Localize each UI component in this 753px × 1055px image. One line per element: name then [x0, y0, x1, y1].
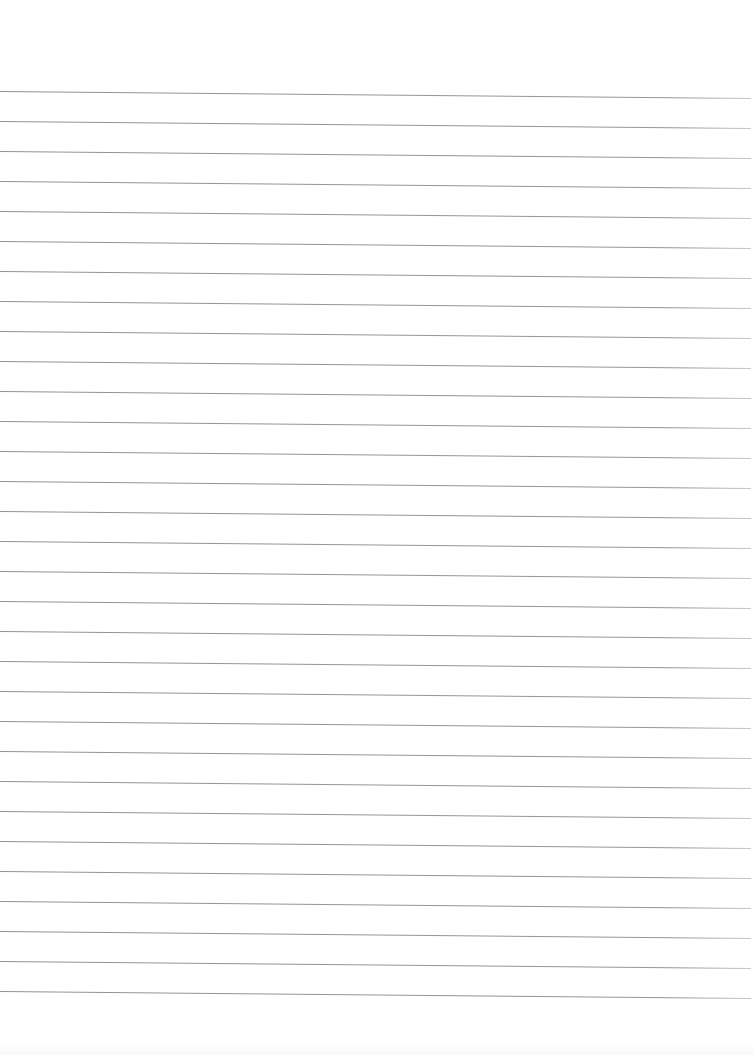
- rule-line: [0, 272, 751, 279]
- rule-line-group: [0, 92, 751, 999]
- rule-line: [0, 962, 751, 969]
- rule-line: [0, 572, 751, 579]
- lined-paper-page: [0, 0, 753, 1055]
- scan-bleed-edge: [0, 1043, 753, 1055]
- rule-line: [0, 932, 751, 939]
- rule-line: [0, 392, 751, 399]
- rule-line: [0, 452, 751, 459]
- rule-line: [0, 992, 751, 999]
- ruled-lines: [0, 0, 753, 1055]
- rule-line: [0, 362, 751, 369]
- rule-line: [0, 512, 751, 519]
- rule-line: [0, 542, 751, 549]
- rule-line: [0, 842, 751, 849]
- rule-line: [0, 122, 751, 129]
- rule-line: [0, 482, 751, 489]
- rule-line: [0, 692, 751, 699]
- rule-line: [0, 722, 751, 729]
- rule-line: [0, 782, 751, 789]
- rule-line: [0, 302, 751, 309]
- rule-line: [0, 152, 751, 159]
- rule-line: [0, 632, 751, 639]
- rule-line: [0, 422, 751, 429]
- rule-line: [0, 182, 751, 189]
- rule-line: [0, 602, 751, 609]
- rule-line: [0, 332, 751, 339]
- rule-line: [0, 752, 751, 759]
- rule-line: [0, 902, 751, 909]
- rule-line: [0, 92, 751, 99]
- rule-line: [0, 662, 751, 669]
- rule-line: [0, 242, 751, 249]
- rule-line: [0, 812, 751, 819]
- rule-line: [0, 212, 751, 219]
- rule-line: [0, 872, 751, 879]
